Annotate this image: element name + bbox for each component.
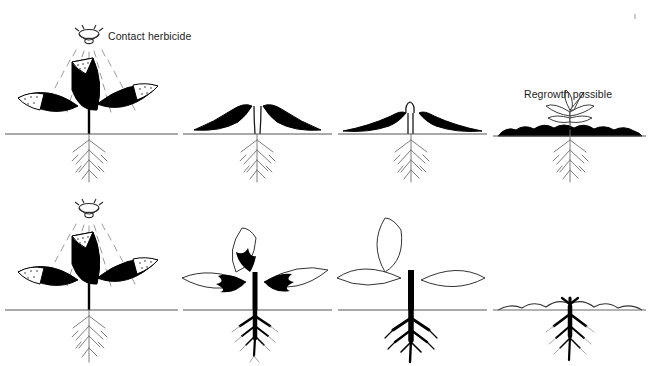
dead-root-system (554, 298, 586, 360)
systemic-stage-1-illustration (0, 186, 180, 366)
systemic-panel-4-plant-killed (490, 186, 649, 366)
contact-panel-1-application (0, 0, 180, 186)
root-system-translocated (240, 310, 270, 356)
stem (254, 106, 261, 134)
leaf-left (18, 267, 78, 286)
root-system (240, 134, 275, 182)
root-system (72, 310, 107, 362)
contact-stage-1-illustration (0, 0, 180, 186)
row-contact-herbicide: Contact herbicide Regrowth possible (0, 0, 649, 186)
contact-stage-2-illustration (180, 0, 335, 186)
row-systemic-herbicide: Systemic herbicide (0, 186, 649, 366)
systemic-panel-2-translocation (180, 186, 335, 366)
label-regrowth-possible: Regrowth possible (524, 88, 612, 101)
root-system (394, 134, 429, 182)
contact-panel-3-foliage-dead (335, 0, 490, 186)
contact-stage-3-illustration (335, 0, 490, 186)
leaf-left (18, 93, 78, 112)
systemic-panel-1-application (0, 186, 180, 366)
collapsed-foliage (194, 105, 321, 131)
leaf-upper (72, 58, 100, 110)
label-contact-herbicide: Contact herbicide (108, 30, 191, 43)
leaf-upper (232, 228, 256, 272)
corner-mark (634, 14, 636, 19)
systemic-panel-3-full-translocation (335, 186, 490, 366)
spray-nozzle-icon (75, 25, 103, 44)
leaf-left (337, 269, 401, 285)
leaf-right (264, 268, 328, 292)
systemic-stage-4-illustration (490, 186, 649, 366)
root-system (553, 130, 588, 182)
stem (406, 102, 414, 134)
leaf-upper (377, 218, 402, 272)
leaf-upper (72, 232, 100, 284)
root-system-translocated (385, 310, 437, 362)
leaf-right (421, 270, 485, 286)
systemic-stage-3-illustration (335, 186, 490, 366)
spray-nozzle-icon (75, 199, 103, 218)
root-system (72, 134, 107, 182)
leaf-left (182, 273, 246, 292)
systemic-stage-2-illustration (180, 186, 335, 366)
contact-panel-2-foliage-burn (180, 0, 335, 186)
herbicide-diagram: Contact herbicide Regrowth possible (0, 0, 649, 366)
